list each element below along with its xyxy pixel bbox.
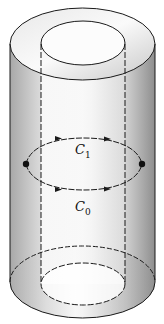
start-point (23, 161, 29, 167)
top-inner-ellipse (41, 21, 125, 65)
label-c1-sub: 1 (85, 150, 91, 160)
label-c1: C1 (75, 143, 91, 160)
hollow-cylinder-diagram (0, 0, 164, 324)
label-c1-base: C (75, 142, 85, 157)
label-c0-sub: 0 (85, 207, 91, 217)
label-c0: C0 (75, 200, 91, 217)
end-point (139, 161, 145, 167)
label-c0-base: C (75, 199, 85, 214)
